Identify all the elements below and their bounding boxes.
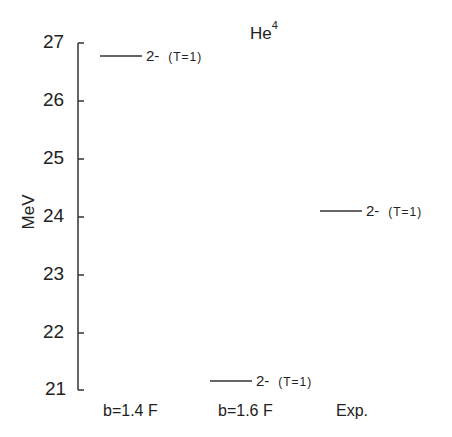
column-label-exp: Exp.: [336, 402, 368, 420]
y-tick-23: 23: [43, 263, 64, 285]
chart-title: He4: [250, 22, 278, 44]
level-label-b16: 2- (T=1): [256, 372, 312, 390]
level-label-b14: 2- (T=1): [146, 47, 202, 65]
y-tick-24: 24: [43, 205, 64, 227]
y-tick-22: 22: [43, 321, 64, 343]
y-axis-label: MeV: [19, 195, 39, 230]
title-main: He: [250, 24, 272, 43]
column-label-b14: b=1.4 F: [103, 402, 158, 420]
column-label-b16: b=1.6 F: [218, 402, 273, 420]
level-label-exp: 2- (T=1): [366, 202, 422, 220]
title-superscript: 4: [272, 19, 278, 31]
y-tick-25: 25: [43, 147, 64, 169]
y-tick-27: 27: [43, 31, 64, 53]
y-tick-26: 26: [43, 89, 64, 111]
y-tick-21: 21: [45, 378, 66, 400]
